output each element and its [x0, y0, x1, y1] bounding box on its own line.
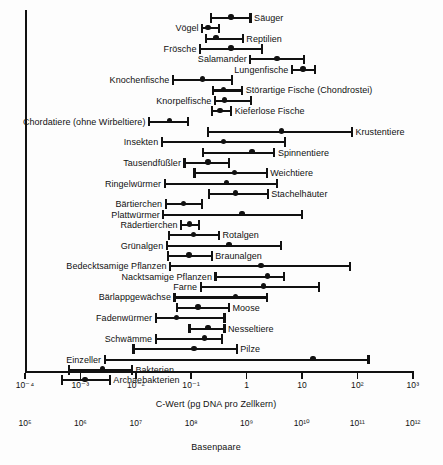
- range-bar: [166, 245, 282, 247]
- typical-value-dot: [195, 304, 200, 309]
- typical-value-dot: [228, 45, 233, 50]
- secondary-tick-label: 10¹²: [405, 418, 420, 428]
- x-tick-label: 10³: [407, 380, 420, 390]
- range-cap-min: [155, 334, 157, 344]
- range-cap-max: [261, 44, 263, 54]
- range-cap-min: [214, 272, 216, 282]
- secondary-tick-label: 10¹⁰: [294, 418, 310, 428]
- x-tick-mark: [80, 373, 82, 379]
- range-bar: [202, 152, 275, 154]
- x-tick-mark: [301, 373, 303, 379]
- range-cap-min: [208, 189, 210, 199]
- typical-value-dot: [217, 108, 222, 113]
- secondary-tick-label: 10⁹: [240, 418, 253, 428]
- range-cap-max: [266, 293, 268, 303]
- range-cap-max: [231, 75, 233, 85]
- range-cap-max: [303, 55, 305, 65]
- range-bar: [155, 338, 224, 340]
- typical-value-dot: [202, 335, 207, 340]
- range-bar: [214, 276, 285, 278]
- range-cap-min: [161, 137, 163, 147]
- range-cap-min: [291, 65, 293, 75]
- range-cap-max: [276, 179, 278, 189]
- typical-value-dot: [200, 76, 205, 81]
- range-bar: [214, 100, 252, 102]
- secondary-tick-label: 10⁷: [130, 418, 143, 428]
- range-bar: [200, 286, 320, 288]
- range-cap-max: [349, 262, 351, 272]
- typical-value-dot: [100, 366, 105, 371]
- range-cap-min: [205, 34, 207, 44]
- x-tick-mark: [357, 373, 359, 379]
- range-cap-min: [173, 293, 175, 303]
- range-bar: [132, 348, 237, 350]
- range-cap-min: [214, 96, 216, 106]
- range-cap-min: [199, 44, 201, 54]
- range-cap-min: [188, 324, 190, 334]
- range-bar: [162, 214, 303, 216]
- range-cap-min: [201, 24, 203, 34]
- range-cap-min: [165, 199, 167, 209]
- range-cap-min: [180, 220, 182, 230]
- range-cap-min: [68, 365, 70, 375]
- range-bar: [208, 193, 269, 195]
- range-cap-max: [187, 117, 189, 127]
- range-bar: [176, 307, 230, 309]
- x-tick-label: 10⁻⁴: [16, 380, 35, 390]
- range-cap-max: [318, 282, 320, 292]
- range-cap-min: [210, 13, 212, 23]
- typical-value-dot: [274, 56, 279, 61]
- typical-value-dot: [265, 273, 270, 278]
- x-tick-label: 10⁻¹: [182, 380, 200, 390]
- secondary-tick-label: 10⁵: [19, 418, 32, 428]
- range-cap-min: [207, 127, 209, 137]
- chart-row: Archaebakterien: [0, 374, 443, 386]
- row-label: Archaebakterien: [111, 374, 180, 386]
- range-bar: [164, 183, 278, 185]
- range-cap-min: [176, 303, 178, 313]
- range-cap-min: [166, 241, 168, 251]
- x-tick-label: 1: [244, 380, 249, 390]
- x-tick-mark: [190, 373, 192, 379]
- typical-value-dot: [279, 128, 284, 133]
- typical-value-dot: [300, 66, 305, 71]
- typical-value-dot: [310, 356, 315, 361]
- range-cap-min: [167, 251, 169, 261]
- range-cap-max: [367, 355, 369, 365]
- range-cap-min: [183, 158, 185, 168]
- range-cap-max: [280, 241, 282, 251]
- range-cap-max: [218, 24, 220, 34]
- range-cap-max: [221, 334, 223, 344]
- typical-value-dot: [226, 242, 231, 247]
- typical-value-dot: [232, 170, 237, 175]
- range-cap-min: [200, 282, 202, 292]
- typical-value-dot: [186, 252, 191, 257]
- typical-value-dot: [221, 139, 226, 144]
- secondary-tick-label: 10⁸: [185, 418, 198, 428]
- typical-value-dot: [258, 263, 263, 268]
- range-cap-max: [201, 199, 203, 209]
- typical-value-dot: [205, 325, 210, 330]
- range-cap-max: [284, 137, 286, 147]
- range-cap-min: [211, 106, 213, 116]
- range-cap-min: [172, 75, 174, 85]
- x-tick-label: 10⁻²: [127, 380, 145, 390]
- range-bar: [212, 89, 243, 91]
- range-bar: [205, 38, 244, 40]
- secondary-tick-label: 10⁶: [74, 418, 87, 428]
- range-cap-min: [104, 355, 106, 365]
- x-tick-mark: [24, 373, 26, 379]
- range-cap-max: [198, 220, 200, 230]
- range-bar: [193, 172, 267, 174]
- typical-value-dot: [205, 159, 210, 164]
- range-bar: [155, 317, 226, 319]
- range-cap-max: [314, 65, 316, 75]
- range-cap-min: [212, 86, 214, 96]
- typical-value-dot: [222, 97, 227, 102]
- range-cap-min: [132, 344, 134, 354]
- range-cap-max: [250, 96, 252, 106]
- c-value-range-chart: SäugerVögelReptilienFröscheSalamanderLun…: [0, 0, 443, 465]
- range-cap-min: [193, 168, 195, 178]
- x-axis-caption: C-Wert (pg DNA pro Zellkern): [6, 399, 426, 409]
- secondary-tick-label: 10¹¹: [350, 418, 365, 428]
